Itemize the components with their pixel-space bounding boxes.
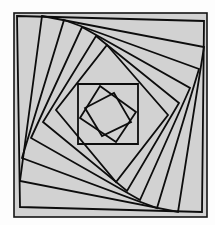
nested-squares-spiral-figure — [0, 0, 215, 225]
figure-container: Whirling nested squares spiral — [0, 0, 215, 225]
